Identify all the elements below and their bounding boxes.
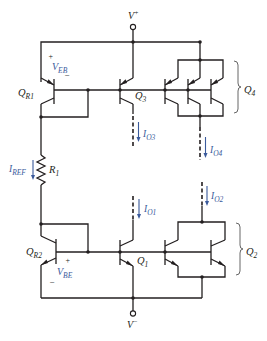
svg-text:V+: V+ [128, 9, 139, 21]
svg-text:−: − [49, 277, 55, 287]
svg-text:Q1: Q1 [137, 255, 148, 269]
lower-base-line [56, 250, 211, 254]
v-plus-terminal: V+ [128, 9, 139, 42]
resistor-r1: R1 [37, 117, 59, 224]
vbe-label: + VBE − [49, 256, 73, 287]
transistor-qr1: QR1 [18, 78, 54, 117]
veb-label: + VEB − [48, 52, 70, 80]
svg-text:+: + [48, 52, 53, 61]
svg-text:QR2: QR2 [26, 246, 42, 260]
svg-text:+: + [65, 256, 70, 265]
svg-text:Q2: Q2 [246, 246, 258, 260]
svg-text:IO2: IO2 [210, 191, 224, 204]
current-io4: IO4 [200, 127, 223, 160]
transistor-q1: Q1 [120, 240, 148, 298]
svg-text:QR1: QR1 [18, 87, 34, 101]
bottom-rail [41, 296, 202, 300]
current-io1: IO1 [133, 196, 156, 240]
svg-text:IO1: IO1 [143, 204, 156, 217]
svg-text:Q4: Q4 [244, 84, 256, 98]
transistor-q4-array: Q4 [165, 58, 256, 127]
current-iref: IREF [8, 160, 35, 180]
svg-text:Q3: Q3 [135, 90, 147, 104]
svg-text:VBE: VBE [57, 266, 73, 280]
current-io3: IO3 [133, 116, 156, 146]
upper-base-line [39, 88, 211, 119]
svg-text:IO3: IO3 [142, 129, 156, 142]
current-mirror-circuit: V+ QR1 + VEB − [0, 0, 267, 341]
svg-text:IO4: IO4 [209, 145, 223, 158]
v-minus-terminal: V− [127, 298, 138, 330]
current-io2: IO2 [202, 182, 224, 222]
transistor-q3: Q3 [120, 42, 147, 114]
svg-text:R1: R1 [48, 164, 59, 178]
svg-text:V−: V− [127, 318, 138, 330]
transistor-qr2: QR2 [26, 222, 88, 298]
svg-text:IREF: IREF [8, 164, 26, 177]
svg-text:−: − [64, 70, 70, 80]
transistor-q2-array: Q2 [165, 220, 258, 298]
